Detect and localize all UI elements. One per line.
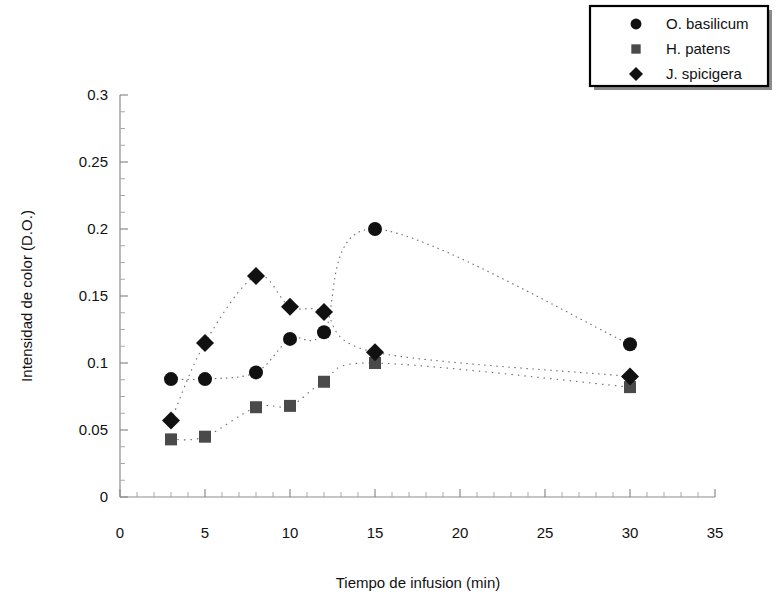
y-tick-label: 0: [100, 488, 108, 505]
data-point-square: [318, 376, 330, 388]
y-tick-label: 0.25: [79, 153, 108, 170]
data-point-square: [165, 433, 177, 445]
y-tick-label: 0.05: [79, 421, 108, 438]
y-tick-label: 0.2: [87, 220, 108, 237]
y-axis-title: Intensidad de color (D.O.): [18, 210, 35, 382]
data-point-diamond: [281, 298, 299, 316]
data-point-diamond: [621, 367, 639, 385]
x-tick-label: 0: [116, 524, 124, 541]
data-point-diamond: [366, 343, 384, 361]
y-tick-label: 0.1: [87, 354, 108, 371]
series-markers-group: [162, 222, 639, 445]
y-tick-label: 0.3: [87, 86, 108, 103]
x-tick-label: 25: [537, 524, 554, 541]
data-point-diamond: [247, 267, 265, 285]
series-line-1: [171, 363, 630, 440]
data-point-circle: [249, 365, 263, 379]
y-axis-tick-labels: 00.050.10.150.20.250.3: [79, 86, 108, 505]
y-tick-label: 0.15: [79, 287, 108, 304]
legend-label: O. basilicum: [666, 15, 749, 32]
data-point-circle: [198, 372, 212, 386]
data-point-diamond: [162, 412, 180, 430]
legend: O. basilicumH. patensJ. spicigera: [590, 6, 772, 90]
data-point-diamond: [315, 303, 333, 321]
x-tick-label: 30: [622, 524, 639, 541]
x-axis-tick-labels: 05101520253035: [116, 524, 724, 541]
x-tick-label: 10: [282, 524, 299, 541]
legend-marker-circle: [631, 19, 642, 30]
data-point-circle: [317, 325, 331, 339]
data-point-square: [250, 401, 262, 413]
x-tick-label: 5: [201, 524, 209, 541]
x-axis-ticks: [120, 489, 715, 497]
legend-label: J. spicigera: [666, 65, 743, 82]
series-line-0: [171, 229, 630, 380]
data-point-circle: [623, 337, 637, 351]
data-point-square: [284, 400, 296, 412]
x-tick-label: 35: [707, 524, 724, 541]
data-point-circle: [164, 372, 178, 386]
x-tick-label: 15: [367, 524, 384, 541]
series-line-2: [171, 275, 630, 420]
data-point-circle: [283, 332, 297, 346]
data-point-square: [199, 431, 211, 443]
data-point-diamond: [196, 334, 214, 352]
y-axis-ticks: [120, 95, 128, 497]
x-axis-title: Tiempo de infusion (min): [336, 574, 501, 591]
legend-label: H. patens: [666, 40, 730, 57]
chart-figure: 00.050.10.150.20.250.3 05101520253035 Ti…: [0, 0, 778, 610]
data-point-circle: [368, 222, 382, 236]
legend-marker-square: [631, 44, 640, 53]
x-tick-label: 20: [452, 524, 469, 541]
series-lines-group: [171, 229, 630, 440]
chart-canvas: 00.050.10.150.20.250.3 05101520253035 Ti…: [0, 0, 778, 610]
